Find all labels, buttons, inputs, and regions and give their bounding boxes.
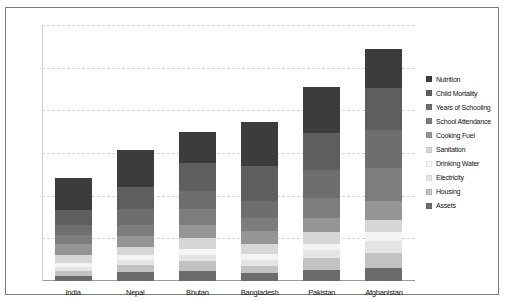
bar-segment <box>117 236 154 247</box>
gridline <box>42 110 415 111</box>
bar-segment <box>303 170 340 198</box>
chart-frame: 0.300.250.200.150.100.05 IndiaNepalBhuta… <box>5 7 499 295</box>
bar-segment <box>365 220 402 231</box>
bar-segment <box>303 218 340 233</box>
legend-swatch-icon <box>426 104 432 110</box>
bar-segment <box>365 130 402 168</box>
bar-segment <box>55 235 92 244</box>
x-axis-label-afghanistan: Afghanistan <box>348 288 420 297</box>
chart-legend: NutritionChild MortalityYears of Schooli… <box>426 72 498 213</box>
bar-segment <box>179 238 216 248</box>
bar-segment <box>303 87 340 132</box>
bar-segment <box>241 273 278 281</box>
bar-segment <box>55 210 92 225</box>
bar-segment <box>365 241 402 253</box>
legend-item-label: Assets <box>436 202 456 209</box>
legend-item-drinking-water[interactable]: Drinking Water <box>426 157 498 171</box>
gridline <box>42 25 415 26</box>
bar-segment <box>303 198 340 218</box>
bar-segment <box>241 231 278 245</box>
bar-segment <box>179 191 216 209</box>
bar-segment <box>117 265 154 273</box>
bar-segment <box>117 209 154 224</box>
bar-segment <box>365 268 402 281</box>
legend-item-school-attendance[interactable]: School Attendance <box>426 114 498 128</box>
bar-segment <box>303 270 340 281</box>
legend-item-label: Years of Schooling <box>436 104 491 111</box>
legend-swatch-icon <box>426 76 432 82</box>
bar-segment <box>365 49 402 88</box>
bar-segment <box>179 255 216 262</box>
bar-segment <box>303 232 340 243</box>
bar-segment <box>55 276 92 281</box>
bar-segment <box>179 209 216 224</box>
legend-item-label: Electricity <box>436 174 464 181</box>
legend-item-label: Drinking Water <box>436 160 479 167</box>
bar-india[interactable] <box>55 178 92 281</box>
bar-bhutan[interactable] <box>179 132 216 281</box>
legend-item-electricity[interactable]: Electricity <box>426 171 498 185</box>
legend-swatch-icon <box>426 175 432 181</box>
bar-segment <box>55 255 92 264</box>
bar-segment <box>241 201 278 218</box>
bar-segment <box>241 266 278 274</box>
bar-segment <box>55 178 92 210</box>
bar-segment <box>365 168 402 200</box>
bar-segment <box>241 122 278 166</box>
bar-afghanistan[interactable] <box>365 49 402 281</box>
bar-segment <box>55 244 92 255</box>
gridline <box>42 68 415 69</box>
bar-segment <box>241 244 278 253</box>
legend-swatch-icon <box>426 189 432 195</box>
bar-bangladesh[interactable] <box>241 122 278 281</box>
legend-swatch-icon <box>426 132 432 138</box>
bar-segment <box>117 225 154 236</box>
legend-item-label: School Attendance <box>436 118 491 125</box>
legend-item-nutrition[interactable]: Nutrition <box>426 72 498 86</box>
bar-segment <box>365 201 402 221</box>
gridline <box>42 196 415 197</box>
legend-item-label: Cooking Fuel <box>436 132 475 139</box>
gridline <box>42 238 415 239</box>
bar-segment <box>303 133 340 171</box>
bar-segment <box>179 132 216 164</box>
bar-segment <box>55 225 92 235</box>
bar-segment <box>365 88 402 130</box>
bar-segment <box>241 218 278 231</box>
bar-segment <box>117 187 154 209</box>
bar-segment <box>117 247 154 255</box>
legend-item-assets[interactable]: Assets <box>426 199 498 213</box>
bar-segment <box>179 163 216 191</box>
bar-nepal[interactable] <box>117 150 154 281</box>
bar-segment <box>117 150 154 188</box>
bar-segment <box>365 253 402 268</box>
legend-item-sanitation[interactable]: Sanitation <box>426 142 498 156</box>
bar-segment <box>365 232 402 241</box>
legend-item-label: Nutrition <box>436 76 460 83</box>
legend-item-cooking-fuel[interactable]: Cooking Fuel <box>426 128 498 142</box>
bar-segment <box>303 258 340 270</box>
bar-segment <box>179 271 216 281</box>
legend-item-years-of-schooling[interactable]: Years of Schooling <box>426 100 498 114</box>
legend-item-label: Sanitation <box>436 146 465 153</box>
legend-item-label: Housing <box>436 188 460 195</box>
bar-segment <box>179 261 216 270</box>
plot-area: 0.300.250.200.150.100.05 IndiaNepalBhuta… <box>42 25 415 281</box>
bar-segment <box>241 166 278 201</box>
legend-item-label: Child Mortality <box>436 90 477 97</box>
legend-item-child-mortality[interactable]: Child Mortality <box>426 86 498 100</box>
bar-segment <box>303 244 340 251</box>
legend-swatch-icon <box>426 203 432 209</box>
legend-item-housing[interactable]: Housing <box>426 185 498 199</box>
legend-swatch-icon <box>426 118 432 124</box>
legend-swatch-icon <box>426 90 432 96</box>
bar-segment <box>179 225 216 239</box>
bar-pakistan[interactable] <box>303 87 340 281</box>
bar-segment <box>303 250 340 258</box>
gridline <box>42 153 415 154</box>
legend-swatch-icon <box>426 147 432 153</box>
legend-swatch-icon <box>426 161 432 167</box>
bar-segment <box>117 272 154 281</box>
